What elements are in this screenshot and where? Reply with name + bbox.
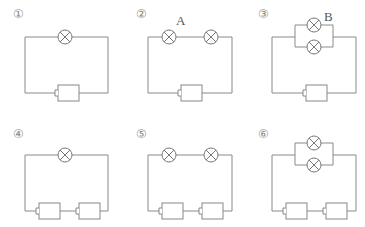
circuit-panel-1 <box>25 30 108 101</box>
battery-icon <box>76 203 100 219</box>
lamp-icon <box>58 148 72 162</box>
lamp-b-icon <box>307 18 321 32</box>
battery-c-icon <box>36 203 60 219</box>
lamp-icon <box>307 158 321 172</box>
circuit-diagrams: ① ② ③ ④ ⑤ ⑥ A B C <box>0 0 365 227</box>
circuit-panel-2 <box>148 30 232 101</box>
lamp-icon <box>307 136 321 150</box>
lamp-a-icon <box>162 30 176 44</box>
battery-icon <box>323 203 347 219</box>
battery-icon <box>55 85 79 101</box>
lamp-icon <box>307 40 321 54</box>
lamp-icon <box>58 30 72 44</box>
battery-icon <box>159 203 183 219</box>
circuit-panel-5 <box>148 148 232 219</box>
lamp-icon <box>204 30 218 44</box>
lamp-icon <box>204 148 218 162</box>
battery-icon <box>178 85 202 101</box>
battery-icon <box>283 203 307 219</box>
battery-icon <box>303 85 327 101</box>
lamp-icon <box>162 148 176 162</box>
circuit-panel-3 <box>272 18 356 101</box>
circuits-svg <box>0 0 365 227</box>
circuit-panel-6 <box>272 136 356 219</box>
battery-icon <box>199 203 223 219</box>
circuit-panel-4 <box>25 148 108 219</box>
